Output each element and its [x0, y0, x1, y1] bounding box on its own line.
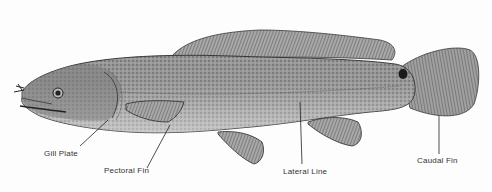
- label-caudal-fin: Caudal Fin: [417, 156, 458, 165]
- barbel: [14, 84, 24, 92]
- label-pectoral-fin: Pectoral Fin: [104, 166, 149, 175]
- anal-fin: [308, 118, 361, 147]
- fish-diagram: Gill Plate Pectoral Fin Lateral Line Cau…: [0, 0, 492, 192]
- label-gill-plate: Gill Plate: [44, 149, 78, 158]
- tail-spot: [399, 69, 408, 79]
- label-lateral-line: Lateral Line: [283, 167, 327, 176]
- pelvic-fin: [218, 131, 264, 164]
